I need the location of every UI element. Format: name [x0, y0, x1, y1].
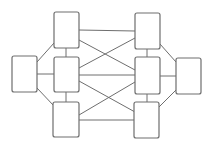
edge-lt-rt: [79, 30, 135, 31]
edge-lb-rm: [79, 82, 135, 115]
node-left-top: [54, 12, 79, 48]
node-left-middle: [54, 57, 79, 92]
edge-rb-r: [159, 90, 176, 107]
node-left: [12, 56, 37, 92]
node-right-top: [135, 13, 160, 49]
edge-l-lb: [37, 88, 54, 106]
edge-lm-rt: [79, 38, 135, 68]
edge-lm-rb: [79, 81, 135, 112]
network-diagram: [0, 0, 211, 145]
node-right: [176, 58, 201, 94]
node-right-middle: [135, 57, 160, 94]
node-right-bottom: [134, 102, 159, 138]
edge-l-lt: [37, 43, 54, 62]
node-left-bottom: [53, 102, 79, 137]
edge-rt-r: [160, 44, 176, 62]
edge-lt-rm: [79, 40, 135, 70]
